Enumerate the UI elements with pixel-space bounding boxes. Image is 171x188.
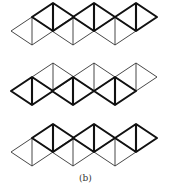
row-1-strip [11, 3, 157, 45]
lower-diamond [11, 77, 53, 105]
row-3-strip [11, 124, 157, 166]
upper-diamond [32, 124, 74, 152]
upper-diamond [32, 3, 74, 31]
row-2-strip [11, 63, 157, 105]
lower-diamond [94, 77, 136, 105]
lower-diamond [94, 138, 136, 166]
lower-diamond [11, 17, 53, 45]
lower-diamond [52, 77, 94, 105]
upper-diamond [73, 3, 115, 31]
diamond-strip-diagram [0, 0, 171, 188]
lower-diamond [52, 138, 94, 166]
lower-diamond [11, 138, 53, 166]
lower-diamond [94, 17, 136, 45]
upper-diamond [115, 63, 157, 91]
upper-diamond [115, 124, 157, 152]
upper-diamond [32, 63, 74, 91]
figure-caption: (b) [0, 173, 171, 183]
upper-diamond [73, 63, 115, 91]
upper-diamond [73, 124, 115, 152]
upper-diamond [115, 3, 157, 31]
lower-diamond [52, 17, 94, 45]
